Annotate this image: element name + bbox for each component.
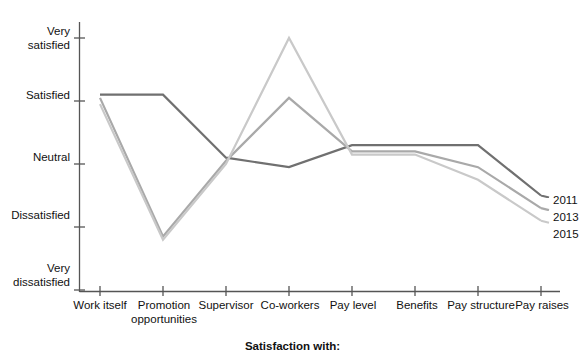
legend-entry-2015: 2015 [553, 228, 579, 241]
x-axis-title: Satisfaction with: [0, 340, 585, 352]
series-line-2015 [100, 38, 541, 240]
y-tick-label-satisfied: Satisfied [4, 89, 70, 103]
legend-entry-2013: 2013 [553, 211, 579, 224]
data-series-group [100, 38, 541, 240]
series-line-2011 [100, 95, 541, 196]
x-tick-label-work-itself: Work itself [63, 299, 137, 313]
legend-leader-2011 [541, 196, 549, 198]
y-tick-label-very-dissatisfied: Very dissatisfied [4, 262, 70, 289]
series-line-2013 [100, 98, 541, 237]
legend-leader-2013 [541, 208, 549, 210]
y-tick-label-dissatisfied: Dissatisfied [4, 209, 70, 223]
x-tick-label-supervisor: Supervisor [189, 299, 263, 313]
x-tick-label-benefits: Benefits [380, 299, 454, 313]
legend-entry-2011: 2011 [553, 194, 578, 207]
legend-leader-2015 [541, 221, 549, 223]
axis-lines [74, 22, 560, 296]
y-tick-label-neutral: Neutral [4, 151, 70, 165]
y-tick-label-very-satisfied: Very satisfied [4, 25, 70, 52]
x-tick-label-pay-level: Pay level [316, 299, 390, 313]
satisfaction-line-chart: Very satisfied Satisfied Neutral Dissati… [0, 0, 585, 360]
legend-leader-lines [541, 196, 549, 223]
x-tick-label-pay-raises: Pay raises [505, 299, 579, 313]
